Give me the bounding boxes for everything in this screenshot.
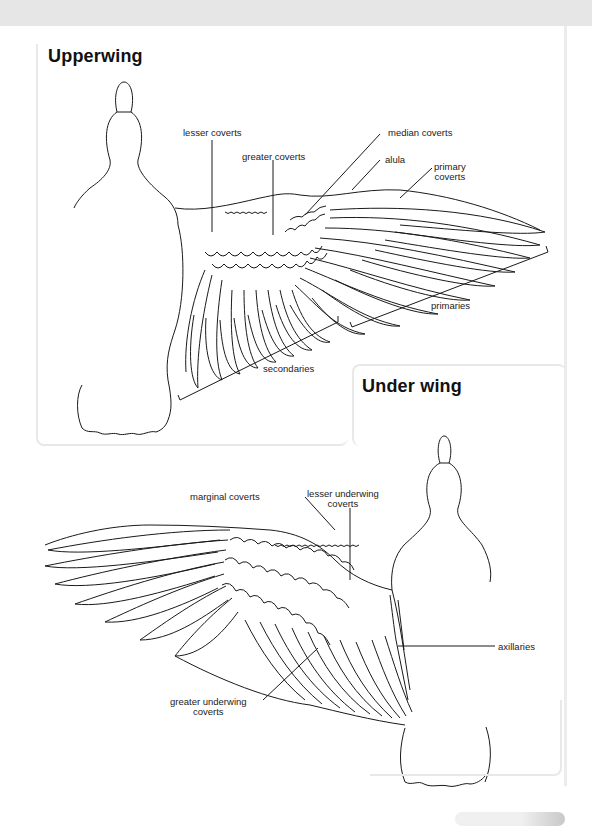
underwing-wing [45,497,495,725]
underwing-panel-bottom [370,700,562,776]
label-greater-underwing-coverts-line2: coverts [170,707,247,717]
label-lesser-coverts: lesser coverts [183,128,242,138]
label-primary-coverts: primary coverts [434,162,466,182]
upperwing-bird-body [74,82,183,435]
label-lesser-underwing-coverts-line2: coverts [307,499,379,509]
label-axillaries: axillaries [498,642,535,652]
label-primary-coverts-line2: coverts [434,172,466,182]
label-median-coverts: median coverts [388,128,452,138]
label-greater-underwing-coverts: greater underwing coverts [170,697,247,717]
label-greater-coverts: greater coverts [242,152,305,162]
label-alula: alula [385,155,405,165]
label-secondaries: secondaries [263,364,314,374]
label-lesser-underwing-coverts: lesser underwing coverts [307,489,379,509]
page-tab-decoration [455,812,565,826]
label-primaries: primaries [431,301,470,311]
label-marginal-coverts: marginal coverts [190,492,260,502]
upperwing-wing [175,134,548,400]
